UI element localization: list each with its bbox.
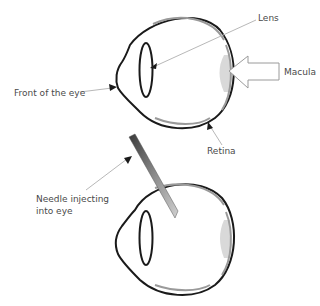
lens-shape: [140, 43, 153, 97]
eyeball-outline-bottom: [116, 184, 234, 295]
needle: [129, 134, 178, 218]
top-eye: [80, 18, 279, 145]
macula-region-bottom: [220, 220, 230, 258]
bottom-eye: [86, 134, 234, 295]
macula-region: [220, 55, 231, 92]
lens-shape-bottom: [140, 211, 153, 265]
lens-arrowhead: [150, 63, 157, 69]
retina-lower-bottom: [155, 285, 210, 290]
front-arrowhead: [109, 84, 117, 91]
lens-label: Lens: [258, 12, 279, 24]
macula-arrow: [229, 56, 279, 88]
front-of-eye-label: Front of the eye: [14, 87, 85, 99]
retina-label: Retina: [207, 145, 236, 157]
eye-diagram: [0, 0, 320, 306]
macula-label: Macula: [284, 66, 316, 78]
retina-leader-line: [210, 126, 222, 145]
needle-label-line2: into eye: [36, 205, 73, 217]
needle-label-line1: Needle injecting: [36, 193, 109, 205]
needle-leader-line: [86, 159, 127, 190]
lens-leader-line: [151, 20, 256, 68]
retina-lower: [155, 118, 210, 124]
eyeball-outline: [116, 18, 233, 128]
